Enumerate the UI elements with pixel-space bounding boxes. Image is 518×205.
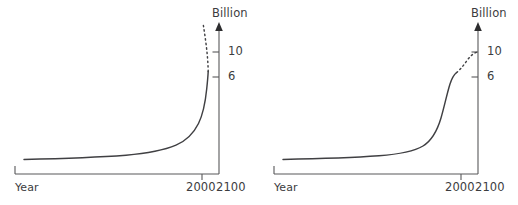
x-axis-line	[274, 166, 478, 174]
observed-population-curve	[24, 72, 208, 160]
y-tick-label-10: 10	[228, 46, 243, 58]
x-axis-title: Year	[15, 182, 39, 193]
projected-population-curve	[203, 26, 208, 72]
y-axis-arrow-icon	[474, 22, 482, 31]
y-axis-title: Billion	[212, 8, 248, 20]
logistic-chart-svg	[259, 0, 518, 205]
y-axis-arrow-icon	[215, 22, 223, 31]
population-growth-figure: Billion 10 6 Year 2000 2100 Bi	[0, 0, 518, 205]
chart-panel-logistic: Billion 10 6 Year 2000 2100	[259, 0, 518, 205]
y-tick-label-6: 6	[228, 71, 235, 83]
x-tick-label-2000: 2000	[186, 182, 216, 194]
y-axis-title: Billion	[471, 8, 507, 20]
x-tick-label-2100: 2100	[216, 182, 246, 194]
observed-population-curve	[283, 73, 457, 160]
x-tick-label-2100: 2100	[475, 182, 505, 194]
x-axis-title: Year	[274, 182, 298, 193]
exponential-chart-svg	[0, 0, 259, 205]
y-tick-label-10: 10	[487, 46, 502, 58]
y-tick-label-6: 6	[487, 71, 494, 83]
x-tick-label-2000: 2000	[445, 182, 475, 194]
chart-panel-exponential: Billion 10 6 Year 2000 2100	[0, 0, 259, 205]
x-axis-line	[15, 166, 219, 174]
projected-population-curve	[457, 52, 478, 73]
